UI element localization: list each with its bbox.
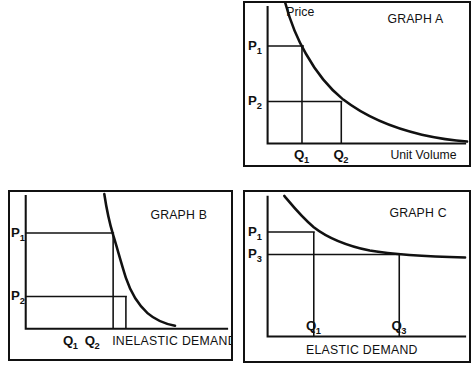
graph-c-demand-curve bbox=[284, 196, 465, 258]
graph-c-label-p1: P bbox=[248, 224, 257, 239]
graph-b-title: GRAPH B bbox=[150, 208, 207, 222]
graph-b-label-q1-sub: 1 bbox=[73, 341, 78, 351]
graph-c-panel: GRAPH C ELASTIC DEMAND P 1 P 3 Q 1 Q 3 bbox=[243, 190, 471, 363]
graph-c-label-p1-sub: 1 bbox=[257, 232, 262, 242]
graph-a-label-p2: P bbox=[248, 94, 257, 109]
graph-c-label-q1-sub: 1 bbox=[316, 326, 321, 336]
figure-canvas: Price Unit Volume GRAPH A P 1 P 2 Q 1 Q … bbox=[0, 0, 476, 371]
graph-a-axes bbox=[268, 7, 465, 144]
graph-a-label-p1: P bbox=[248, 38, 257, 53]
graph-b-panel: GRAPH B INELASTIC DEMAND P 1 P 2 Q 1 Q 2 bbox=[8, 190, 233, 361]
graph-a-label-q2-sub: 2 bbox=[343, 155, 348, 165]
graph-c-label-q3: Q bbox=[391, 318, 401, 333]
graph-b-label-p1: P bbox=[11, 225, 20, 240]
graph-b-label-p1-sub: 1 bbox=[20, 233, 25, 243]
graph-c-plot: GRAPH C ELASTIC DEMAND P 1 P 3 Q 1 Q 3 bbox=[245, 192, 469, 361]
graph-c-label-q1: Q bbox=[306, 318, 316, 333]
graph-b-label-p2-sub: 2 bbox=[20, 296, 25, 306]
graph-a-title: GRAPH A bbox=[387, 13, 444, 27]
graph-c-label-p3-sub: 3 bbox=[257, 254, 262, 264]
graph-c-label-p3: P bbox=[248, 246, 257, 261]
graph-a-label-q2: Q bbox=[333, 147, 343, 162]
graph-c-caption: ELASTIC DEMAND bbox=[306, 343, 418, 357]
graph-a-y-axis-label: Price bbox=[286, 5, 314, 19]
graph-b-label-q2: Q bbox=[85, 333, 95, 348]
graph-a-label-q1-sub: 1 bbox=[304, 155, 309, 165]
graph-a-label-p2-sub: 2 bbox=[257, 101, 262, 111]
graph-b-label-p2: P bbox=[11, 288, 20, 303]
graph-b-caption: INELASTIC DEMAND bbox=[112, 334, 231, 348]
graph-b-label-q1: Q bbox=[63, 333, 73, 348]
graph-a-x-axis-label: Unit Volume bbox=[390, 148, 456, 162]
graph-c-label-q3-sub: 3 bbox=[401, 326, 406, 336]
graph-b-plot: GRAPH B INELASTIC DEMAND P 1 P 2 Q 1 Q 2 bbox=[10, 192, 231, 359]
graph-a-label-p1-sub: 1 bbox=[257, 46, 262, 56]
graph-c-title: GRAPH C bbox=[389, 206, 446, 220]
graph-a-label-q1: Q bbox=[294, 147, 304, 162]
graph-a-panel: Price Unit Volume GRAPH A P 1 P 2 Q 1 Q … bbox=[243, 1, 471, 167]
graph-b-label-q2-sub: 2 bbox=[94, 341, 99, 351]
graph-a-plot: Price Unit Volume GRAPH A P 1 P 2 Q 1 Q … bbox=[245, 3, 469, 165]
